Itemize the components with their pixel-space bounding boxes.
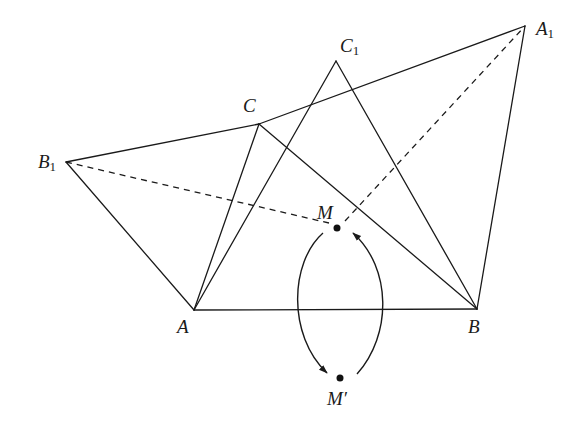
label-b1-text: B xyxy=(38,151,50,172)
label-c-text: C xyxy=(243,95,256,116)
arrow-m-to-mprime xyxy=(298,233,327,373)
label-a1-text: A xyxy=(536,18,548,39)
segment-a1-b xyxy=(477,26,525,309)
point-m-prime xyxy=(337,375,344,382)
label-m-prime: M′ xyxy=(327,389,347,408)
segment-c1-b xyxy=(336,61,477,309)
segment-a-b xyxy=(194,309,477,310)
segment-c-a1 xyxy=(259,26,525,124)
geometry-diagram xyxy=(0,0,582,428)
segment-b1-a xyxy=(66,162,194,310)
point-m xyxy=(334,225,341,232)
label-c: C xyxy=(243,96,256,115)
label-a-text: A xyxy=(177,316,189,337)
label-c1-subscript: 1 xyxy=(353,43,360,58)
segment-a-c xyxy=(194,124,259,310)
label-a: A xyxy=(177,317,189,336)
label-b: B xyxy=(468,317,480,336)
segment-b1-c xyxy=(66,124,259,162)
segment-c-b xyxy=(259,124,477,309)
arrow-mprime-to-m xyxy=(353,233,383,374)
label-b-text: B xyxy=(468,316,480,337)
label-a1-subscript: 1 xyxy=(548,26,555,41)
label-m-prime-text: M′ xyxy=(327,388,347,409)
dashed-b1-m xyxy=(66,162,329,223)
label-c1: C1 xyxy=(340,36,359,57)
label-b1: B1 xyxy=(38,152,56,173)
label-m: M xyxy=(317,203,333,222)
label-m-text: M xyxy=(317,202,333,223)
label-a1: A1 xyxy=(536,19,554,40)
segment-a-c1 xyxy=(194,61,336,310)
label-b1-subscript: 1 xyxy=(50,159,57,174)
label-c1-text: C xyxy=(340,35,353,56)
